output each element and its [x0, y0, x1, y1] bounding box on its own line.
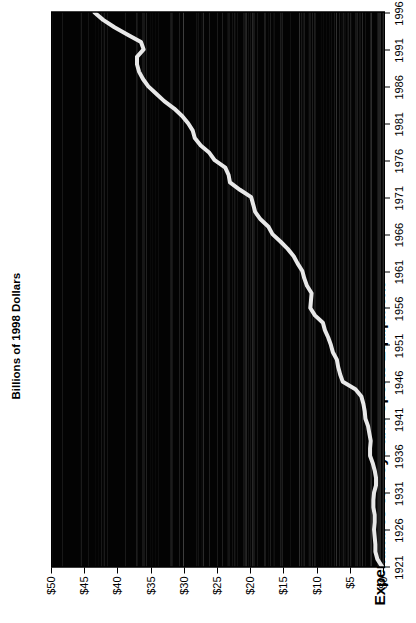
y-tick-mark	[383, 567, 384, 573]
x-tick-label: 1951	[393, 333, 405, 357]
x-tick-label: 1926	[393, 518, 405, 542]
x-tick-label: 1976	[393, 148, 405, 172]
x-tick-label: 1961	[393, 259, 405, 283]
y-tick-label: $35	[145, 576, 157, 594]
y-tick-label: $25	[211, 576, 223, 594]
y-tick-mark	[84, 567, 85, 573]
y-tick-mark	[51, 567, 52, 573]
y-tick-mark	[117, 567, 118, 573]
x-tick-label: 1941	[393, 407, 405, 431]
y-tick-label: $10	[311, 576, 323, 594]
x-tick-mark	[384, 381, 390, 382]
x-tick-label: 1981	[393, 112, 405, 136]
x-tick-label: 1956	[393, 296, 405, 320]
x-axis-ticks: 1921192619311936194119461951195619611966…	[384, 13, 414, 567]
x-tick-mark	[384, 492, 390, 493]
x-tick-mark	[384, 271, 390, 272]
x-tick-mark	[384, 529, 390, 530]
y-tick-mark	[317, 567, 318, 573]
x-tick-mark	[384, 455, 390, 456]
y-tick-mark	[250, 567, 251, 573]
x-tick-mark	[384, 123, 390, 124]
y-axis-ticks: $0$5$10$15$20$25$30$35$40$45$50	[51, 567, 383, 617]
y-tick-label: $15	[277, 576, 289, 594]
x-tick-mark	[384, 418, 390, 419]
x-tick-mark	[384, 160, 390, 161]
x-tick-mark	[384, 344, 390, 345]
x-tick-label: 1946	[393, 370, 405, 394]
y-tick-label: $40	[111, 576, 123, 594]
chart-figure: Expenditures on Toys and Sports Equipmen…	[0, 0, 416, 623]
x-tick-mark	[384, 234, 390, 235]
y-tick-label: $5	[344, 576, 356, 588]
y-tick-mark	[184, 567, 185, 573]
x-tick-label: 1966	[393, 222, 405, 246]
x-tick-mark	[384, 49, 390, 50]
x-tick-mark	[384, 12, 390, 13]
x-tick-label: 1936	[393, 444, 405, 468]
y-tick-mark	[217, 567, 218, 573]
x-tick-label: 1931	[393, 481, 405, 505]
y-tick-label: $0	[377, 576, 389, 588]
y-tick-mark	[350, 567, 351, 573]
x-tick-mark	[384, 307, 390, 308]
x-tick-mark	[384, 197, 390, 198]
y-tick-mark	[151, 567, 152, 573]
x-tick-label: 1991	[393, 38, 405, 62]
x-tick-label: 1921	[393, 555, 405, 579]
x-tick-label: 1996	[393, 1, 405, 25]
rotated-chart-container: Expenditures on Toys and Sports Equipmen…	[0, 0, 416, 623]
y-tick-label: $50	[45, 576, 57, 594]
x-tick-mark	[384, 566, 390, 567]
y-tick-label: $20	[244, 576, 256, 594]
x-tick-mark	[384, 86, 390, 87]
y-tick-label: $45	[78, 576, 90, 594]
x-tick-label: 1986	[393, 75, 405, 99]
plot-area	[51, 11, 385, 567]
x-tick-label: 1971	[393, 185, 405, 209]
data-line-series	[52, 12, 384, 566]
y-tick-label: $30	[178, 576, 190, 594]
y-axis-title: Billions of 1998 Dollars	[10, 272, 22, 399]
y-tick-mark	[283, 567, 284, 573]
